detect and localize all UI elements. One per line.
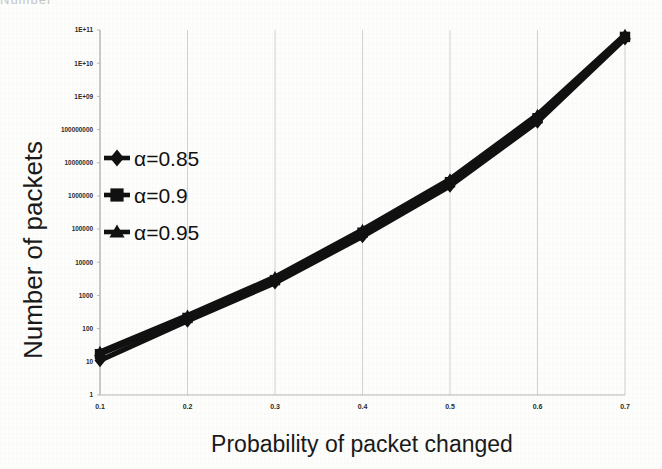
legend-label: α=0.85 [134,147,199,170]
x-tick-label: 0.5 [445,403,455,410]
y-tick-label: 10000 [75,259,93,266]
y-tick-label: 1000000 [68,192,93,199]
y-tick-label: 100000 [72,225,94,232]
chart-figure: 1101001000100001000001000000100000001000… [0,0,662,469]
x-tick-label: 0.6 [533,403,543,410]
y-tick-label: 1E+09 [74,93,93,100]
y-tick-label: 1 [89,391,93,398]
legend-item[interactable]: α=0.9 [104,184,188,207]
x-tick-label: 0.4 [358,403,368,410]
legend-label: α=0.95 [134,221,199,244]
legend-marker-square-icon [110,188,123,201]
y-tick-label: 1E+10 [74,60,93,67]
legend-marker-diamond-icon [110,149,124,166]
y-tick-label: 100000000 [61,126,93,133]
x-tick-label: 0.1 [95,403,105,410]
x-axis-title: Probability of packet changed [211,431,513,457]
chart-legend: α=0.85α=0.9α=0.95 [104,147,199,244]
gridlines [97,30,625,395]
x-tick-label: 0.2 [183,403,193,410]
log-line-chart: 1101001000100001000001000000100000001000… [0,0,662,469]
x-axis-tick-labels: 0.10.20.30.40.50.60.7 [95,403,630,410]
y-tick-label: 1E+11 [75,26,94,33]
y-tick-label: 1000 [79,292,94,299]
legend-item[interactable]: α=0.85 [104,147,199,170]
y-tick-label: 10000000 [65,159,94,166]
legend-item[interactable]: α=0.95 [104,221,199,244]
x-tick-label: 0.3 [270,403,280,410]
y-tick-label: 100 [82,325,93,332]
legend-label: α=0.9 [134,184,188,207]
y-axis-title: Number of packets [18,141,48,359]
x-tick-label: 0.7 [620,403,630,410]
y-axis-tick-labels: 1101001000100001000001000000100000001000… [61,26,93,398]
y-tick-label: 10 [86,358,94,365]
